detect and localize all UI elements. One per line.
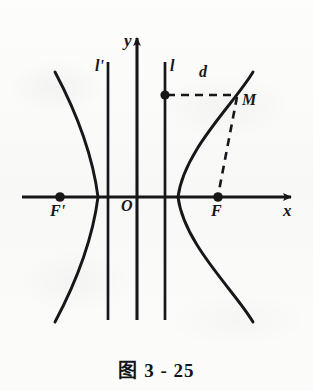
point-label-f: F <box>211 203 222 219</box>
point-focus-left <box>55 192 65 202</box>
segment-mf-dashed <box>218 97 237 196</box>
point-focus-right <box>213 192 223 202</box>
directrix-label-l-prime: l' <box>95 58 104 74</box>
axis-label-x: x <box>283 202 292 219</box>
point-label-m: M <box>242 92 256 108</box>
axis-label-y: y <box>124 32 132 49</box>
origin-label: O <box>121 198 133 214</box>
point-directrix-foot <box>160 90 169 99</box>
point-label-f-prime: F' <box>50 203 65 219</box>
hyperbola-figure <box>0 0 313 391</box>
figure-caption: 图 3 - 25 <box>0 355 313 382</box>
directrix-label-l: l <box>170 58 174 74</box>
segment-label-d: d <box>199 64 207 80</box>
figure-page: y x O F' F M d l l' 图 3 - 25 <box>0 0 313 391</box>
